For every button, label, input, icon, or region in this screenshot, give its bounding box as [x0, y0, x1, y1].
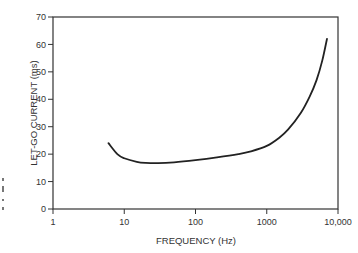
let-go-current-curve: [108, 39, 327, 163]
y-tick-label: 0: [41, 204, 46, 214]
plot-frame: [53, 17, 338, 209]
chart: 010203040506070 110100100010,000 FREQUEN…: [0, 0, 358, 253]
x-axis-title: FREQUENCY (Hz): [156, 235, 236, 246]
y-tick-label: 60: [36, 40, 46, 50]
x-tick-label: 10: [119, 217, 129, 227]
plot-axes: [53, 17, 338, 209]
scan-artifacts: [2, 178, 4, 210]
y-tick-label: 70: [36, 12, 46, 22]
y-tick-label: 10: [36, 177, 46, 187]
x-axis-ticks: 110100100010,000: [50, 209, 351, 227]
x-tick-label: 10,000: [324, 217, 352, 227]
x-tick-label: 100: [188, 217, 203, 227]
y-axis-title: LET-GO CURRENT (ms): [28, 60, 39, 165]
data-series: [108, 39, 327, 163]
x-tick-label: 1000: [257, 217, 277, 227]
x-tick-label: 1: [50, 217, 55, 227]
